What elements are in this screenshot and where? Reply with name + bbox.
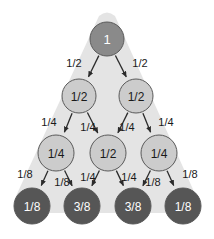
node-value-label: 1/2 xyxy=(71,90,88,104)
tree-node[interactable]: 1/8 xyxy=(165,188,201,224)
edge-probability-label: 1/4 xyxy=(80,171,95,183)
edge-probability-label: 1/2 xyxy=(132,57,147,69)
tree-node[interactable]: 3/8 xyxy=(64,188,100,224)
edge-probability-label: 1/4 xyxy=(80,121,95,133)
probability-tree-diagram: 11/21/21/41/21/41/83/83/81/8 1/21/21/41/… xyxy=(0,0,214,239)
tree-node[interactable]: 1/8 xyxy=(14,188,50,224)
tree-node[interactable]: 3/8 xyxy=(115,188,151,224)
edge-probability-label: 1/4 xyxy=(41,116,56,128)
node-value-label: 3/8 xyxy=(74,200,91,214)
tree-node[interactable]: 1/2 xyxy=(90,135,126,171)
tree-canvas: 11/21/21/41/21/41/83/83/81/8 1/21/21/41/… xyxy=(0,0,214,239)
tree-node[interactable]: 1/4 xyxy=(38,135,74,171)
tree-node[interactable]: 1/2 xyxy=(62,79,96,113)
edge-probability-label: 1/4 xyxy=(119,121,134,133)
node-value-label: 1/8 xyxy=(24,200,41,214)
edge-probability-label: 1/4 xyxy=(158,116,173,128)
tree-node[interactable]: 1/2 xyxy=(119,79,153,113)
edge-probability-label: 1/4 xyxy=(121,171,136,183)
node-value-label: 1/8 xyxy=(175,200,192,214)
tree-node[interactable]: 1 xyxy=(90,22,124,56)
node-value-label: 3/8 xyxy=(125,200,142,214)
node-value-label: 1 xyxy=(103,32,110,47)
edge-probability-label: 1/2 xyxy=(66,57,81,69)
node-value-label: 1/4 xyxy=(151,147,168,161)
edge-probability-label: 1/8 xyxy=(145,176,160,188)
edge-probability-label: 1/8 xyxy=(17,168,32,180)
node-value-label: 1/4 xyxy=(48,147,65,161)
tree-node[interactable]: 1/4 xyxy=(141,135,177,171)
edge-probability-label: 1/8 xyxy=(182,168,197,180)
node-value-label: 1/2 xyxy=(128,90,145,104)
edge-probability-label: 1/8 xyxy=(54,176,69,188)
node-value-label: 1/2 xyxy=(100,147,117,161)
